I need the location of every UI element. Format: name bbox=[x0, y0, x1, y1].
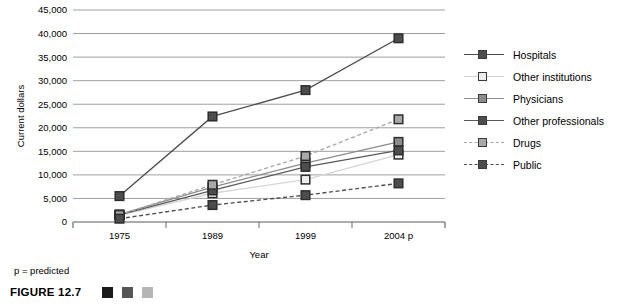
data-point-marker bbox=[115, 214, 124, 223]
legend-marker-icon bbox=[478, 116, 487, 125]
x-tick-label: 2004 p bbox=[384, 230, 413, 241]
data-point-marker bbox=[208, 201, 217, 210]
legend-swatch-icon bbox=[464, 114, 504, 128]
y-tick-label: 10,000 bbox=[38, 169, 67, 180]
legend-item-other-professionals[interactable]: Other professionals bbox=[464, 110, 629, 132]
caption-swatch-group bbox=[93, 287, 153, 298]
gridlines bbox=[73, 10, 445, 222]
legend-swatch-icon bbox=[464, 136, 504, 150]
data-point-marker bbox=[301, 175, 310, 184]
y-tick-label: 15,000 bbox=[38, 146, 67, 157]
legend-swatch-icon bbox=[464, 48, 504, 62]
series-line bbox=[120, 155, 399, 216]
legend-item-drugs[interactable]: Drugs bbox=[464, 132, 629, 154]
series-lines bbox=[115, 34, 403, 223]
legend-item-other-institutions[interactable]: Other institutions bbox=[464, 66, 629, 88]
legend-item-hospitals[interactable]: Hospitals bbox=[464, 44, 629, 66]
legend-swatch-icon bbox=[464, 70, 504, 84]
data-point-marker bbox=[394, 179, 403, 188]
figure-caption: FIGURE 12.7 bbox=[10, 286, 153, 298]
figure-root: 05,00010,00015,00020,00025,00030,00035,0… bbox=[0, 0, 631, 305]
data-point-marker bbox=[394, 34, 403, 43]
legend-item-physicians[interactable]: Physicians bbox=[464, 88, 629, 110]
data-point-marker bbox=[301, 163, 310, 172]
series-public bbox=[115, 179, 403, 223]
y-tick-label: 30,000 bbox=[38, 75, 67, 86]
x-axis-title: Year bbox=[249, 249, 268, 258]
legend-item-label: Other professionals bbox=[513, 115, 604, 127]
series-line bbox=[120, 38, 399, 196]
caption-color-swatch bbox=[142, 287, 153, 298]
legend-item-label: Hospitals bbox=[513, 49, 556, 61]
y-tick-label: 40,000 bbox=[38, 28, 67, 39]
y-tick-label: 20,000 bbox=[38, 122, 67, 133]
legend-item-label: Public bbox=[513, 159, 542, 171]
legend-marker-icon bbox=[478, 94, 487, 103]
data-point-marker bbox=[301, 152, 310, 161]
series-line bbox=[120, 183, 399, 218]
legend-marker-icon bbox=[478, 160, 487, 169]
y-tick-label: 35,000 bbox=[38, 52, 67, 63]
y-axis-tick-labels: 05,00010,00015,00020,00025,00030,00035,0… bbox=[38, 4, 67, 227]
legend-swatch-icon bbox=[464, 92, 504, 106]
series-other-institutions bbox=[115, 150, 403, 219]
data-point-marker bbox=[394, 138, 403, 147]
legend-marker-icon bbox=[478, 50, 487, 59]
data-point-marker bbox=[394, 146, 403, 155]
x-tick-label: 1975 bbox=[109, 230, 130, 241]
y-tick-label: 45,000 bbox=[38, 4, 67, 15]
data-point-marker bbox=[394, 115, 403, 124]
legend-marker-icon bbox=[478, 138, 487, 147]
legend-swatch-icon bbox=[464, 158, 504, 172]
caption-color-swatch bbox=[102, 287, 113, 298]
x-axis: 1975198919992004 p bbox=[73, 222, 445, 241]
y-tick-label: 5,000 bbox=[43, 193, 67, 204]
figure-caption-label: FIGURE 12.7 bbox=[10, 286, 81, 298]
data-point-marker bbox=[208, 112, 217, 121]
legend-item-public[interactable]: Public bbox=[464, 154, 629, 176]
data-point-marker bbox=[115, 192, 124, 201]
y-axis-title: Current dollars bbox=[15, 85, 26, 148]
caption-color-swatch bbox=[122, 287, 133, 298]
legend-item-label: Other institutions bbox=[513, 71, 592, 83]
x-tick-label: 1999 bbox=[295, 230, 316, 241]
data-point-marker bbox=[301, 191, 310, 200]
legend-item-label: Drugs bbox=[513, 137, 541, 149]
legend-marker-icon bbox=[478, 72, 487, 81]
line-chart: 05,00010,00015,00020,00025,00030,00035,0… bbox=[0, 0, 460, 258]
chart-legend: HospitalsOther institutionsPhysiciansOth… bbox=[464, 44, 629, 176]
data-point-marker bbox=[208, 180, 217, 189]
y-tick-label: 25,000 bbox=[38, 99, 67, 110]
predicted-note: p = predicted bbox=[14, 265, 69, 276]
x-tick-label: 1989 bbox=[202, 230, 223, 241]
series-other-professionals bbox=[115, 146, 403, 219]
y-tick-label: 0 bbox=[62, 216, 67, 227]
data-point-marker bbox=[301, 86, 310, 95]
chart-canvas: 05,00010,00015,00020,00025,00030,00035,0… bbox=[0, 0, 460, 258]
legend-item-label: Physicians bbox=[513, 93, 563, 105]
